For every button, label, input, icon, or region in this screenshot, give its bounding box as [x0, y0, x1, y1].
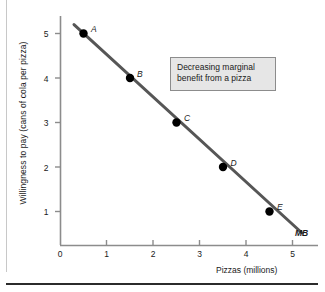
- marginal-benefit-line: [74, 25, 302, 233]
- x-tick-label-4: 4: [239, 249, 253, 259]
- data-point-label-a: A: [91, 24, 97, 34]
- y-axis-label: Willingness to pay (cans of cola per piz…: [18, 18, 28, 228]
- annotation-line-1: Decreasing marginal: [177, 62, 270, 73]
- data-point-label-b: B: [137, 69, 143, 79]
- x-tick-label-1: 1: [100, 249, 114, 259]
- x-axis-label: Pizzas (millions): [216, 265, 277, 275]
- y-tick-label-1: 1: [39, 207, 53, 217]
- data-point-label-d: D: [231, 158, 237, 168]
- y-tick-label-4: 4: [39, 74, 53, 84]
- annotation-line-2: benefit from a pizza: [177, 73, 270, 84]
- decreasing-marginal-benefit-annotation: Decreasing marginal benefit from a pizza: [170, 57, 276, 91]
- data-point-e: [265, 207, 273, 215]
- data-point-d: [219, 163, 227, 171]
- y-tick-label-5: 5: [39, 29, 53, 39]
- figure-panel: Willingness to pay (cans of cola per piz…: [0, 0, 325, 292]
- data-point-c: [172, 118, 180, 126]
- marginal-benefit-curve-label: MB: [295, 228, 308, 238]
- x-tick-label-2: 2: [146, 249, 160, 259]
- data-point-label-e: E: [277, 202, 283, 212]
- y-tick-label-3: 3: [39, 118, 53, 128]
- data-point-b: [126, 74, 134, 82]
- x-tick-label-5: 5: [286, 249, 300, 259]
- data-point-a: [79, 29, 87, 37]
- data-point-label-c: C: [184, 113, 190, 123]
- chart-plot-area: [0, 0, 325, 292]
- x-tick-label-3: 3: [193, 249, 207, 259]
- y-tick-label-2: 2: [39, 163, 53, 173]
- x-tick-label-0: 0: [53, 249, 67, 259]
